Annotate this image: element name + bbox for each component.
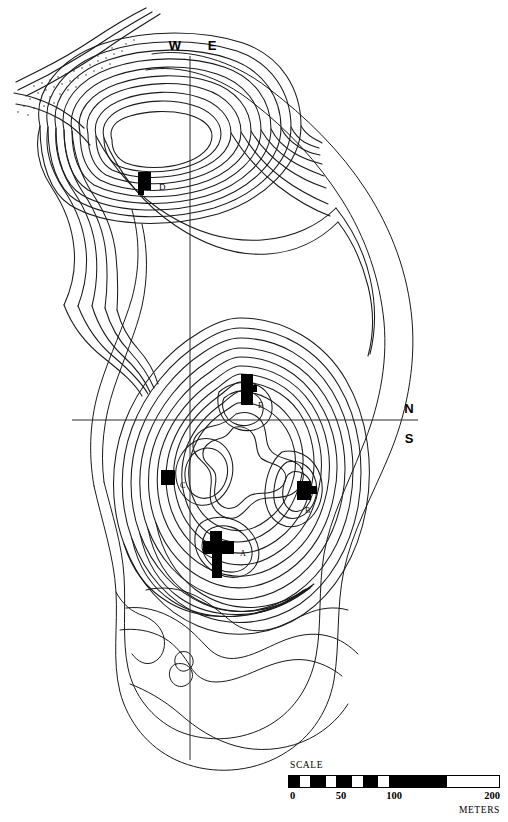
topographic-map: W E N S D E C B A bbox=[0, 0, 508, 822]
scale-tick-mark bbox=[394, 776, 395, 788]
scale-tick-labels: 050100200 bbox=[288, 790, 500, 804]
compass-label-east: E bbox=[208, 38, 217, 53]
structure-B: B bbox=[297, 481, 317, 515]
scale-segment bbox=[363, 776, 379, 787]
west-flank-contours bbox=[64, 210, 158, 486]
scale-tick-mark bbox=[342, 776, 343, 788]
scale-units-label: METERS bbox=[288, 805, 500, 815]
scale-tick-label: 200 bbox=[484, 790, 500, 801]
structure-E: E bbox=[241, 374, 263, 410]
compass-label-west: W bbox=[169, 38, 182, 53]
scale-bar bbox=[288, 775, 500, 788]
main-hill-contours bbox=[114, 318, 370, 634]
summit-lobe-contours bbox=[176, 382, 323, 577]
scale-title: SCALE bbox=[290, 760, 500, 770]
scale-segment bbox=[310, 776, 326, 787]
scale-tick-label: 0 bbox=[290, 790, 295, 801]
structure-label-A: A bbox=[240, 549, 246, 558]
structure-label-D: D bbox=[159, 182, 166, 192]
structure-label-E: E bbox=[258, 401, 263, 410]
scale-segment bbox=[336, 776, 352, 787]
scale-segment bbox=[289, 776, 300, 787]
scale-segment bbox=[389, 776, 447, 787]
scale-tick-label: 100 bbox=[386, 790, 402, 801]
compass-label-north: N bbox=[404, 401, 413, 416]
north-hill-contours bbox=[39, 33, 301, 223]
scale-bar-block: SCALE 050100200 METERS bbox=[288, 760, 500, 815]
map-canvas: W E N S D E C B A bbox=[0, 0, 508, 822]
compass-label-south: S bbox=[405, 431, 414, 446]
structure-label-C: C bbox=[180, 481, 185, 490]
structure-label-B: B bbox=[305, 506, 310, 515]
scale-tick-label: 50 bbox=[336, 790, 347, 801]
